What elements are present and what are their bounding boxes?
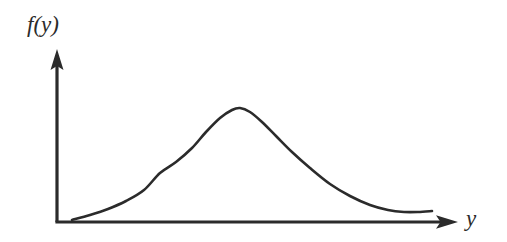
density-curve-group [72, 108, 432, 220]
x-axis-label: y [466, 207, 476, 230]
axes-group [51, 49, 459, 229]
y-axis-label: f(y) [27, 13, 59, 36]
plot-canvas [0, 0, 507, 242]
density-plot-figure: f(y) y [0, 0, 507, 242]
density-curve [72, 108, 432, 220]
